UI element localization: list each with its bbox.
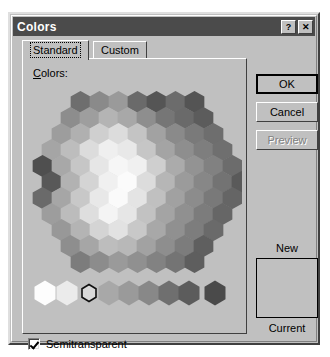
help-button[interactable]: ? bbox=[281, 20, 296, 34]
palette-bottom-hex-4[interactable] bbox=[119, 281, 140, 306]
palette-bottom-hex-5[interactable] bbox=[139, 281, 160, 306]
semitransparent-checkbox[interactable] bbox=[28, 338, 40, 350]
palette-bottom-hex-3[interactable] bbox=[99, 281, 120, 306]
colors-dialog: Colors ? ✕ Standard Custom Colors: Semit… bbox=[8, 12, 320, 345]
palette-bottom-hex-0[interactable] bbox=[35, 281, 56, 306]
tab-standard[interactable]: Standard bbox=[22, 40, 89, 60]
preview-button: Preview bbox=[256, 130, 318, 150]
palette-bottom-hex-1[interactable] bbox=[57, 281, 78, 306]
cancel-button[interactable]: Cancel bbox=[256, 102, 318, 122]
palette-bottom-hex-8[interactable] bbox=[205, 281, 226, 306]
tab-custom-label: Custom bbox=[101, 44, 139, 56]
new-color-label: New bbox=[256, 242, 318, 254]
ok-button[interactable]: OK bbox=[256, 74, 318, 94]
window-title: Colors bbox=[17, 20, 57, 34]
palette-bottom-hex-2[interactable] bbox=[82, 285, 96, 302]
close-button[interactable]: ✕ bbox=[298, 20, 313, 34]
palette-bottom-hex-6[interactable] bbox=[159, 281, 180, 306]
tab-standard-label: Standard bbox=[30, 42, 81, 58]
colors-label-rest: olors: bbox=[41, 67, 68, 79]
standard-tab-panel: Colors: bbox=[22, 58, 247, 334]
tab-custom[interactable]: Custom bbox=[93, 41, 147, 59]
colors-label-accel: C bbox=[33, 67, 41, 79]
semitransparent-row[interactable]: Semitransparent bbox=[28, 338, 127, 350]
color-preview-swatch bbox=[256, 258, 318, 318]
palette-bottom-hex-7[interactable] bbox=[179, 281, 200, 306]
current-color-label: Current bbox=[256, 322, 318, 334]
title-bar[interactable]: Colors ? ✕ bbox=[13, 17, 315, 36]
color-hexagon-palette[interactable] bbox=[27, 81, 242, 329]
semitransparent-label: Semitransparent bbox=[46, 338, 127, 350]
colors-label: Colors: bbox=[33, 67, 68, 79]
